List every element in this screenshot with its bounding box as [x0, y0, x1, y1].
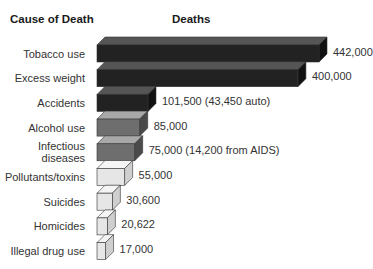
bar-front-face	[97, 94, 148, 111]
bar-row: Pollutants/toxins55,000	[5, 161, 172, 186]
category-label: Infectious	[38, 140, 86, 152]
value-label: 85,000	[154, 120, 188, 132]
bar-front-face	[97, 119, 140, 136]
category-label: Homicides	[34, 220, 86, 232]
value-label: 75,000 (14,200 from AIDS)	[149, 144, 280, 156]
bar-front-face	[97, 243, 106, 260]
category-label: Excess weight	[15, 72, 85, 84]
bar-top-face	[97, 62, 306, 70]
value-label: 55,000	[139, 169, 173, 181]
value-label: 400,000	[312, 70, 352, 82]
value-axis-header: Deaths	[172, 13, 210, 25]
category-label: Tobacco use	[23, 48, 85, 60]
category-axis-header: Cause of Death	[10, 13, 94, 25]
bar-front-face	[97, 70, 298, 87]
bar-row: Infectiousdiseases75,000 (14,200 from AI…	[38, 136, 280, 165]
bar-row: Illegal drug use17,000	[10, 235, 153, 260]
value-label: 442,000	[333, 46, 373, 58]
value-label: 17,000	[120, 243, 154, 255]
bar-top-face	[97, 86, 156, 94]
bar-row: Excess weight400,000	[15, 62, 352, 87]
bar-row: Suicides30,600	[43, 185, 160, 210]
bar-row: Tobacco use442,000	[23, 37, 373, 62]
bar-row: Accidents101,500 (43,450 auto)	[37, 86, 270, 111]
bar-front-face	[97, 169, 125, 186]
bar-top-face	[97, 37, 327, 45]
category-label: Accidents	[37, 97, 85, 109]
bar-front-face	[97, 218, 107, 235]
category-label: diseases	[42, 152, 86, 164]
value-label: 20,622	[121, 218, 155, 230]
bar-front-face	[97, 144, 135, 161]
value-label: 30,600	[126, 194, 160, 206]
bar-front-face	[97, 45, 319, 62]
bar-row: Homicides20,622	[34, 210, 155, 235]
category-label: Pollutants/toxins	[5, 171, 86, 183]
bar-top-face	[97, 111, 148, 119]
category-label: Illegal drug use	[10, 245, 85, 257]
bar-row: Alcohol use85,000	[28, 111, 187, 136]
bar-front-face	[97, 193, 112, 210]
deaths-bar-chart: Cause of Death Deaths Tobacco use442,000…	[0, 0, 373, 269]
bars-group: Tobacco use442,000Excess weight400,000Ac…	[5, 37, 373, 260]
value-label: 101,500 (43,450 auto)	[162, 95, 270, 107]
category-label: Suicides	[43, 196, 85, 208]
category-label: Alcohol use	[28, 122, 85, 134]
